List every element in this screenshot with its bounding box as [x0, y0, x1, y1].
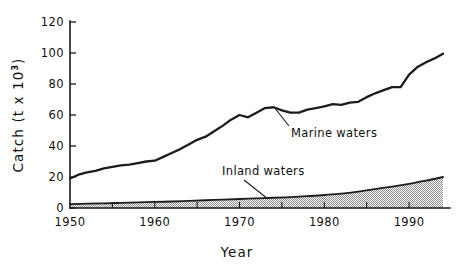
y-tick-label: 100	[41, 46, 64, 60]
marine-waters-label: Marine waters	[291, 126, 377, 140]
chart-figure: 020406080100120 19501960197019801990 Mar…	[0, 0, 462, 266]
y-tick-label: 60	[49, 108, 64, 122]
y-axis-title-exponent: 3	[11, 64, 20, 71]
svg-text:Catch (t x 103): Catch (t x 103)	[10, 58, 26, 173]
y-axis-title-tail: )	[10, 58, 26, 64]
marine-waters-line	[70, 54, 443, 179]
y-axis-title-main: Catch (t x 10	[10, 71, 26, 173]
catch-line-chart: 020406080100120 19501960197019801990 Mar…	[0, 0, 462, 266]
y-axis-tick-labels: 020406080100120	[41, 15, 64, 215]
inland-leader-line	[244, 180, 268, 199]
x-tick-label: 1960	[139, 215, 170, 229]
y-tick-label: 80	[49, 77, 64, 91]
inland-waters-label: Inland waters	[222, 164, 304, 178]
x-tick-label: 1980	[309, 215, 340, 229]
x-axis-tick-labels: 19501960197019801990	[55, 215, 425, 229]
y-tick-label: 40	[49, 139, 64, 153]
x-tick-label: 1990	[394, 215, 425, 229]
y-tick-label: 0	[56, 201, 64, 215]
y-tick-label: 120	[41, 15, 64, 29]
x-tick-label: 1970	[224, 215, 255, 229]
y-axis-ticks	[70, 22, 76, 208]
y-axis-title: Catch (t x 103)	[10, 58, 26, 173]
x-tick-label: 1950	[55, 215, 86, 229]
y-tick-label: 20	[49, 170, 64, 184]
x-axis-title: Year	[220, 244, 254, 260]
